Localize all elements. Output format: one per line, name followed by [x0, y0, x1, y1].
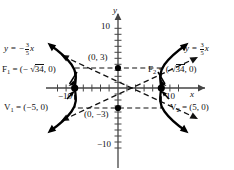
y-tick-label-10: 10	[101, 22, 110, 31]
focus-left-eq: = (−	[10, 64, 30, 74]
vertex-left-point	[71, 84, 78, 91]
focus-right-tail: , 0)	[185, 64, 197, 74]
asymptote-left-fraction: 35	[25, 42, 29, 56]
asymptote-left-denominator: 5	[25, 50, 29, 57]
co-vertex-top-point	[115, 65, 121, 71]
point-bottom-label: (0, −3)	[84, 110, 109, 119]
co-vertex-bottom-point	[115, 105, 121, 111]
vertex-right-label: V2 = (5, 0)	[170, 103, 209, 113]
focus-right-radicand: 34	[176, 64, 185, 74]
x-axis-label: x	[190, 90, 194, 99]
graph-canvas	[0, 0, 234, 170]
vertex-left-label: V1 = (−5, 0)	[4, 103, 48, 113]
point-top-label: (0, 3)	[88, 53, 108, 62]
asymptote-right-label: y = 35x	[185, 42, 209, 56]
hyperbola-figure: y x 10 −10 −10 10 y = −35x y = 35x F1 = …	[0, 0, 234, 170]
x-tick-label-10: 10	[166, 92, 175, 101]
vertex-right-eq: = (5, 0)	[180, 102, 209, 112]
asymptote-right-fraction: 35	[200, 42, 204, 56]
asymptote-arrow-upper-right	[190, 57, 199, 64]
vertex-left-eq: = (−5, 0)	[14, 102, 48, 112]
x-tick-label-neg10: −10	[58, 92, 72, 101]
focus-left-radicand: 34	[35, 64, 44, 74]
vertex-right-point	[158, 84, 165, 91]
asymptote-right-prefix: y =	[185, 43, 200, 53]
asymptote-right-denominator: 5	[200, 50, 204, 57]
asymptote-left-suffix: x	[30, 43, 34, 53]
asymptote-arrow-lower-right	[190, 113, 199, 120]
y-axis-label: y	[113, 6, 117, 15]
asymptote-left-label: y = −35x	[4, 42, 34, 56]
asymptote-right-suffix: x	[205, 43, 209, 53]
x-axis-arrow	[198, 85, 205, 92]
focus-left-tail: , 0)	[44, 64, 56, 74]
asymptote-left-prefix: y = −	[4, 43, 25, 53]
focus-right-label: F2 = ( √34, 0)	[148, 64, 197, 75]
focus-left-label: F1 = (− √34, 0)	[2, 64, 56, 75]
y-tick-label-neg10: −10	[97, 140, 111, 149]
focus-right-eq: = (	[156, 64, 171, 74]
